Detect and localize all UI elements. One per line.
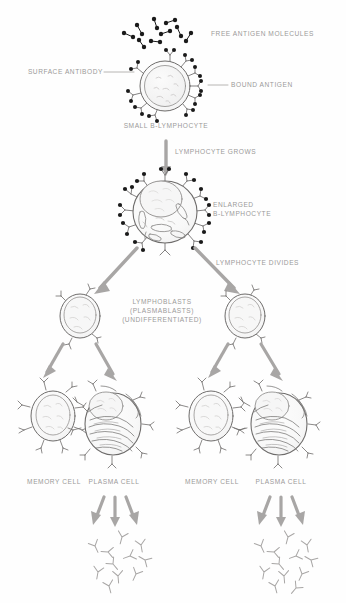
label-lymphoblasts-line3: (UNDIFFERENTIATED) bbox=[107, 316, 217, 325]
plasma-cell-left bbox=[68, 380, 154, 468]
label-small-b-lymphocyte: SMALL B-LYMPHOCYTE bbox=[103, 122, 229, 131]
free-antigen-group bbox=[122, 17, 193, 49]
label-plasma-cell-left: PLASMA CELL bbox=[75, 478, 153, 487]
label-lymphocyte-grows: LYMPHOCYTE GROWS bbox=[175, 148, 256, 157]
arrow-to-plasma-cell-right bbox=[261, 344, 283, 381]
diagram-canvas: FREE ANTIGEN MOLECULES SURFACE ANTIBODY … bbox=[0, 0, 346, 603]
label-lymphoblasts-line1: LYMPHOBLASTS bbox=[107, 298, 217, 307]
label-lymphoblasts-line2: (PLASMABLASTS) bbox=[107, 307, 217, 316]
label-free-antigen-molecules: FREE ANTIGEN MOLECULES bbox=[211, 30, 314, 39]
small-b-lymphocyte bbox=[126, 48, 203, 123]
memory-cell-right bbox=[176, 378, 245, 453]
arrow-divide-left bbox=[94, 248, 137, 294]
arrow-to-memory-cell-left bbox=[43, 344, 63, 378]
label-enlarged-b-lymphocyte-line2: B-LYMPHOCYTE bbox=[213, 210, 271, 219]
arrow-to-plasma-cell-left bbox=[96, 344, 117, 381]
secretion-arrows-right bbox=[257, 497, 305, 527]
secreted-antibodies-right bbox=[254, 531, 317, 597]
secreted-antibodies-left bbox=[88, 531, 151, 594]
lymphoblast-right bbox=[221, 285, 265, 349]
label-enlarged-b-lymphocyte-line1: ENLARGED bbox=[213, 201, 254, 210]
label-bound-antigen: BOUND ANTIGEN bbox=[231, 81, 293, 90]
memory-cell-left bbox=[18, 378, 87, 453]
secretion-arrows-left bbox=[91, 497, 139, 527]
plasma-cell-right bbox=[234, 380, 320, 468]
label-plasma-cell-right: PLASMA CELL bbox=[242, 478, 320, 487]
label-surface-antibody: SURFACE ANTIBODY bbox=[8, 68, 103, 77]
enlarged-b-lymphocyte bbox=[118, 167, 211, 255]
arrow-to-memory-cell-right bbox=[208, 344, 228, 378]
arrow-divide-right bbox=[195, 248, 240, 294]
label-lymphocyte-divides: LYMPHOCYTE DIVIDES bbox=[216, 259, 299, 268]
